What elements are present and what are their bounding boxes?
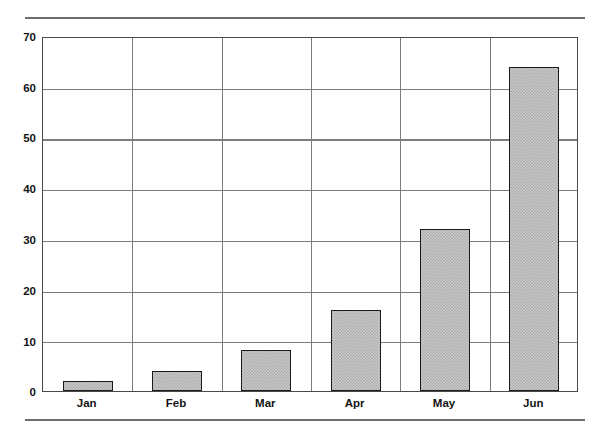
y-tick-label: 30	[2, 235, 36, 247]
bottom-rule	[25, 419, 585, 421]
bar-jan[interactable]	[63, 381, 113, 391]
y-tick-label: 60	[2, 83, 36, 95]
plot-area	[42, 37, 578, 392]
y-tick-label: 50	[2, 133, 36, 145]
bar-may[interactable]	[420, 229, 470, 391]
bar-mar[interactable]	[241, 350, 291, 391]
bar-feb[interactable]	[152, 371, 202, 391]
y-axis-ticks: 70 60 50 40 30 20 10 0	[0, 0, 36, 434]
x-tick-label-jan: Jan	[47, 398, 127, 410]
y-tick-label: 40	[2, 184, 36, 196]
y-tick-label: 0	[2, 387, 36, 399]
x-tick-label-jun: Jun	[493, 398, 573, 410]
x-tick-label-apr: Apr	[315, 398, 395, 410]
y-tick-label: 20	[2, 286, 36, 298]
bar-series	[43, 38, 577, 391]
bar-apr[interactable]	[331, 310, 381, 391]
bar-jun[interactable]	[509, 67, 559, 392]
x-tick-label-mar: Mar	[225, 398, 305, 410]
x-tick-label-feb: Feb	[136, 398, 216, 410]
y-tick-label: 10	[2, 337, 36, 349]
x-tick-label-may: May	[404, 398, 484, 410]
y-tick-label: 70	[2, 32, 36, 44]
bar-chart: 70 60 50 40 30 20 10 0 Jan	[0, 0, 604, 434]
